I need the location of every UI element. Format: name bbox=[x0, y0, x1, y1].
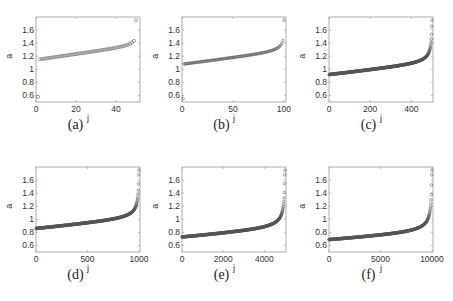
plot-frame bbox=[36, 17, 140, 102]
y-tick-label: 0.8 bbox=[315, 227, 327, 237]
y-axis-label: a bbox=[297, 54, 307, 59]
y-tick-label: 1 bbox=[322, 64, 327, 74]
y-tick-label: 0.6 bbox=[315, 240, 327, 250]
x-tick-label: 40 bbox=[111, 104, 121, 114]
y-tick-label: 1.6 bbox=[168, 25, 180, 35]
y-tick-label: 1 bbox=[175, 214, 180, 224]
caption-a: (a) bbox=[0, 117, 151, 133]
y-axis-label: a bbox=[4, 54, 14, 59]
y-axis-label: a bbox=[297, 204, 307, 209]
y-tick-label: 1 bbox=[322, 214, 327, 224]
y-tick-label: 1.4 bbox=[315, 38, 327, 48]
subplot-f: 0.60.811.21.41.60500010000ja (f) bbox=[293, 150, 444, 300]
x-tick-label: 0 bbox=[34, 104, 39, 114]
y-tick-label: 1 bbox=[29, 214, 34, 224]
y-tick-label: 1.4 bbox=[168, 38, 180, 48]
x-tick-label: 0 bbox=[327, 104, 332, 114]
y-tick-label: 0.8 bbox=[22, 227, 34, 237]
y-tick-label: 0.8 bbox=[168, 77, 180, 87]
caption-e: (e) bbox=[146, 267, 297, 283]
y-tick-label: 1.4 bbox=[22, 38, 34, 48]
y-tick-label: 1.2 bbox=[315, 201, 327, 211]
y-tick-label: 1 bbox=[29, 64, 34, 74]
y-tick-label: 1.2 bbox=[168, 51, 180, 61]
caption-b: (b) bbox=[146, 117, 297, 133]
y-tick-label: 0.8 bbox=[168, 227, 180, 237]
y-tick-label: 1.6 bbox=[22, 175, 34, 185]
y-tick-label: 1.2 bbox=[168, 201, 180, 211]
y-axis-label: a bbox=[150, 54, 160, 59]
y-axis-label: a bbox=[150, 204, 160, 209]
y-tick-label: 0.6 bbox=[315, 90, 327, 100]
plot-frame bbox=[182, 167, 286, 252]
y-tick-label: 1.4 bbox=[22, 188, 34, 198]
y-tick-label: 1.6 bbox=[168, 175, 180, 185]
x-tick-label: 0 bbox=[180, 104, 185, 114]
x-tick-label: 4000 bbox=[255, 254, 274, 264]
subplot-d: 0.60.811.21.41.605001000ja (d) bbox=[0, 150, 151, 300]
caption-f: (f) bbox=[293, 267, 444, 283]
subplot-e: 0.60.811.21.41.6020004000ja (e) bbox=[146, 150, 297, 300]
y-tick-label: 1 bbox=[175, 64, 180, 74]
plot-frame bbox=[36, 167, 140, 252]
y-tick-label: 1.6 bbox=[315, 175, 327, 185]
x-tick-label: 400 bbox=[404, 104, 418, 114]
subplot-b: 0.60.811.21.41.6050100ja (b) bbox=[146, 0, 297, 150]
y-tick-label: 1.2 bbox=[22, 201, 34, 211]
caption-c: (c) bbox=[293, 117, 444, 133]
plot-frame bbox=[329, 17, 433, 102]
y-axis-label: a bbox=[4, 204, 14, 209]
y-tick-label: 0.6 bbox=[168, 90, 180, 100]
x-tick-label: 200 bbox=[363, 104, 377, 114]
y-tick-label: 1.6 bbox=[22, 25, 34, 35]
x-tick-label: 10000 bbox=[420, 254, 444, 264]
x-tick-label: 100 bbox=[277, 104, 291, 114]
y-tick-label: 1.4 bbox=[315, 188, 327, 198]
y-tick-label: 1.6 bbox=[315, 25, 327, 35]
y-tick-label: 0.6 bbox=[22, 90, 34, 100]
y-tick-label: 1.4 bbox=[168, 188, 180, 198]
x-tick-label: 0 bbox=[180, 254, 185, 264]
subplot-c: 0.60.811.21.41.60200400ja (c) bbox=[293, 0, 444, 150]
x-tick-label: 2000 bbox=[214, 254, 233, 264]
caption-d: (d) bbox=[0, 267, 151, 283]
x-tick-label: 0 bbox=[34, 254, 39, 264]
y-tick-label: 1.2 bbox=[315, 51, 327, 61]
x-tick-label: 0 bbox=[327, 254, 332, 264]
plot-frame bbox=[182, 17, 286, 102]
y-tick-label: 0.6 bbox=[168, 240, 180, 250]
x-tick-label: 20 bbox=[71, 104, 81, 114]
subplot-a: 0.60.811.21.41.602040ja (a) bbox=[0, 0, 151, 150]
y-tick-label: 0.6 bbox=[22, 240, 34, 250]
y-tick-label: 0.8 bbox=[315, 77, 327, 87]
y-tick-label: 0.8 bbox=[22, 77, 34, 87]
y-tick-label: 1.2 bbox=[22, 51, 34, 61]
